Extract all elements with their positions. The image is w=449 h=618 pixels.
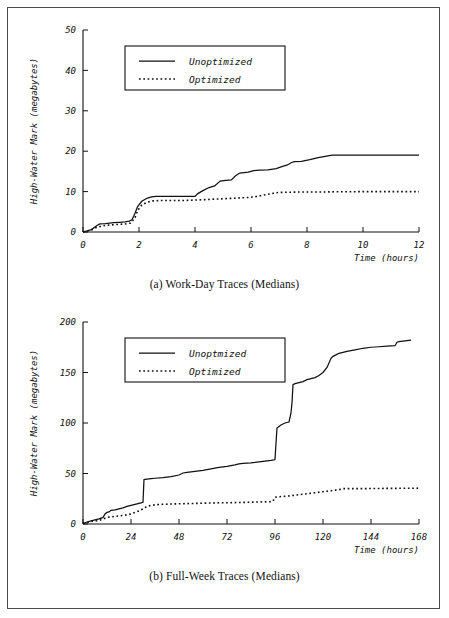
legend-item-optimized-label: Optimized (189, 74, 241, 85)
y-tick-label: 0 (70, 227, 75, 237)
x-tick-label: 12 (413, 240, 424, 250)
x-tick-label: 0 (80, 532, 85, 542)
x-tick-label: 4 (192, 240, 197, 250)
x-tick-label: 120 (314, 532, 330, 542)
work-day-traces-plot: 01020304050024681012High-Water Mark (meg… (15, 14, 435, 276)
x-tick-label: 0 (80, 240, 85, 250)
series-line-optimized (83, 488, 419, 523)
y-tick-label: 0 (70, 519, 75, 529)
x-tick-label: 72 (221, 532, 232, 542)
y-axis-title: High-Water Mark (megabytes) (29, 58, 39, 205)
y-tick-label: 40 (65, 66, 76, 76)
x-tick-label: 6 (248, 240, 253, 250)
x-tick-label: 8 (304, 240, 309, 250)
y-tick-label: 50 (65, 469, 76, 479)
legend-item-unoptimized-label: Unoptimized (189, 56, 252, 67)
x-tick-label: 144 (362, 532, 378, 542)
legend-item-unoptimized-label: Unoptmized (189, 348, 246, 359)
y-tick-label: 20 (65, 146, 76, 156)
caption-panel-a: (a) Work-Day Traces (Medians) (8, 278, 441, 290)
chart-panel-a: 01020304050024681012High-Water Mark (meg… (8, 14, 441, 304)
y-tick-label: 150 (59, 368, 75, 378)
series-line-optimized (83, 192, 419, 232)
x-tick-label: 96 (269, 532, 280, 542)
full-week-traces-plot: 050100150200024487296120144168High-Water… (15, 306, 435, 568)
x-axis-title: Time (hours) (353, 253, 418, 263)
y-tick-label: 30 (64, 106, 76, 116)
x-tick-label: 48 (173, 532, 184, 542)
y-axis-title: High-Water Mark (megabytes) (29, 350, 39, 497)
x-axis-title: Time (hours) (353, 545, 418, 555)
chart-panel-b: 050100150200024487296120144168High-Water… (8, 306, 441, 606)
caption-panel-b: (b) Full-Week Traces (Medians) (8, 570, 441, 582)
y-tick-label: 200 (59, 317, 75, 327)
x-tick-label: 168 (410, 532, 426, 542)
y-tick-label: 100 (59, 418, 75, 428)
y-tick-label: 10 (65, 187, 76, 197)
x-tick-label: 24 (125, 532, 136, 542)
x-tick-label: 2 (136, 240, 141, 250)
figure-frame: 01020304050024681012High-Water Mark (meg… (7, 7, 440, 609)
x-tick-label: 10 (357, 240, 368, 250)
legend-item-optimized-label: Optimized (189, 366, 241, 377)
y-tick-label: 50 (65, 25, 76, 35)
